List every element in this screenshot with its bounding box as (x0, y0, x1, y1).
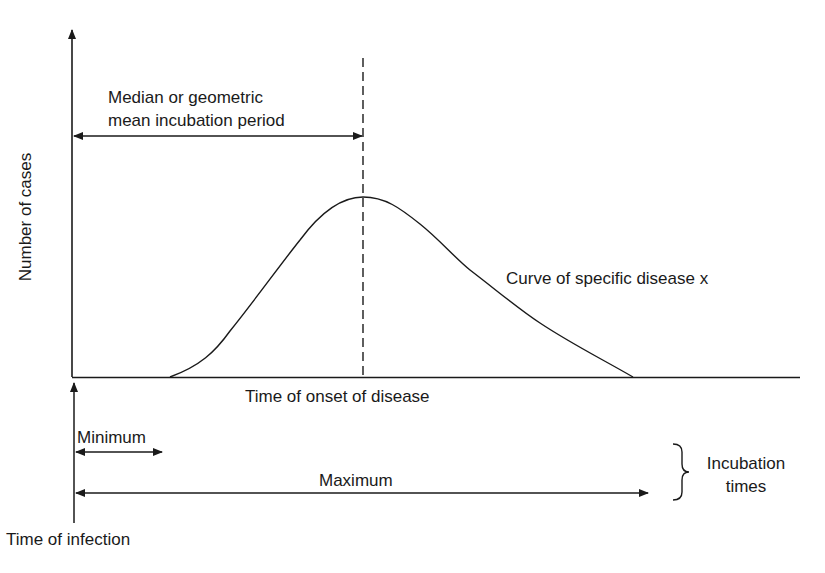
x-axis-label: Time of onset of disease (245, 387, 430, 406)
curly-brace-icon (673, 444, 689, 500)
y-axis-label: Number of cases (16, 153, 35, 282)
median-label-line2: mean incubation period (108, 111, 285, 130)
curve-label: Curve of specific disease x (506, 269, 709, 288)
maximum-label: Maximum (319, 471, 393, 490)
minimum-label: Minimum (77, 428, 146, 447)
incubation-period-diagram: Number of cases Median or geometric mean… (0, 0, 825, 573)
incubation-times-label-line1: Incubation (707, 454, 785, 473)
median-label-line1: Median or geometric (108, 88, 263, 107)
incubation-times-label-line2: times (726, 477, 767, 496)
time-of-infection-label: Time of infection (6, 530, 130, 549)
